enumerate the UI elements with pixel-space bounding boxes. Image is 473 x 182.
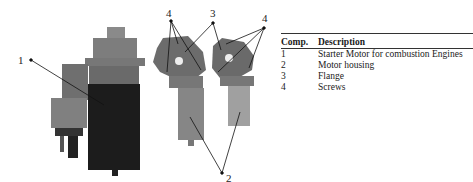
- table-header: Comp. Description: [281, 37, 473, 48]
- cell-comp: 1: [281, 49, 318, 60]
- callout-4-right: 4: [262, 13, 268, 24]
- cell-description: Flange: [318, 71, 473, 82]
- callout-4-left: 4: [166, 8, 172, 19]
- table-row: 3 Flange: [281, 71, 473, 82]
- header-description: Description: [318, 37, 473, 48]
- component-illustration: 1 4 3 4 2: [0, 0, 270, 182]
- component-table: Comp. Description 1 Starter Motor for co…: [281, 33, 473, 93]
- callout-1: 1: [18, 55, 24, 66]
- callout-3: 3: [210, 8, 216, 19]
- cell-comp: 3: [281, 71, 318, 82]
- window-motor-left: [153, 36, 206, 146]
- callout-2: 2: [226, 173, 232, 182]
- table-row: 2 Motor housing: [281, 60, 473, 71]
- cell-comp: 4: [281, 82, 318, 93]
- motor-drawing: [0, 0, 270, 182]
- cell-description: Screws: [318, 82, 473, 93]
- cell-description: Starter Motor for combustion Engines: [318, 49, 473, 60]
- cell-description: Motor housing: [318, 60, 473, 71]
- window-motor-right: [212, 38, 254, 126]
- table-top-rule: [281, 33, 473, 34]
- table-row: 4 Screws: [281, 82, 473, 93]
- table-row: 1 Starter Motor for combustion Engines: [281, 49, 473, 60]
- cell-comp: 2: [281, 60, 318, 71]
- header-comp: Comp.: [281, 37, 318, 48]
